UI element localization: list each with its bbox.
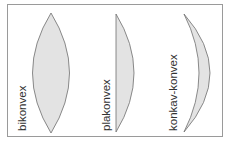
konkav-konvex-label: konkav-konvex [167, 54, 179, 131]
plakonvex-label: plakonvex [100, 79, 112, 131]
lens-types-diagram: bikonvex plakonvex konkav-konvex [0, 0, 230, 142]
bikonvex-label: bikonvex [16, 85, 28, 131]
